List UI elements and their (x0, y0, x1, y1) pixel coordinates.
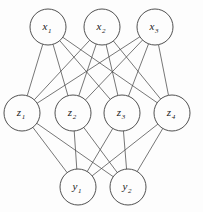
edge-z2-y2 (84, 127, 118, 172)
node-x3[interactable]: x3 (137, 9, 173, 45)
edge-x3-z2 (85, 40, 142, 100)
edge-x2-z1 (34, 40, 89, 100)
node-y2[interactable]: y2 (110, 169, 146, 205)
node-layer: x1x2x3z1z2z3z4y1y2 (4, 9, 190, 205)
edge-x2-z2 (79, 44, 97, 96)
node-x1[interactable]: x1 (30, 9, 66, 45)
network-graph-canvas: x1x2x3z1z2z3z4y1y2 (0, 0, 203, 212)
node-subscript-x3: 3 (154, 26, 159, 34)
node-subscript-x1: 1 (48, 26, 52, 34)
edge-z4-y1 (92, 124, 158, 176)
edge-layer (27, 37, 168, 177)
edge-x3-z4 (158, 45, 168, 96)
node-subscript-z1: 1 (22, 112, 26, 120)
node-subscript-x2: 2 (102, 26, 106, 34)
edge-z1-y1 (33, 127, 67, 172)
node-z3[interactable]: z3 (104, 95, 140, 131)
node-z1[interactable]: z1 (4, 95, 40, 131)
edge-x3-z1 (37, 37, 140, 103)
node-subscript-z2: 2 (73, 112, 77, 120)
node-y1[interactable]: y1 (60, 169, 96, 205)
node-z4[interactable]: z4 (154, 95, 190, 131)
node-x2[interactable]: x2 (84, 9, 120, 45)
edge-x1-z3 (60, 41, 111, 100)
edge-x1-z4 (63, 37, 157, 102)
node-subscript-y2: 2 (128, 186, 132, 194)
neural-network-diagram: x1x2x3z1z2z3z4y1y2 (0, 0, 203, 212)
edge-x1-z1 (27, 44, 43, 96)
node-subscript-z4: 4 (172, 112, 176, 120)
node-subscript-z3: 3 (121, 112, 126, 120)
edge-z3-y1 (87, 128, 113, 171)
edge-z4-y2 (137, 128, 163, 171)
node-subscript-y1: 1 (78, 186, 82, 194)
node-z2[interactable]: z2 (55, 95, 91, 131)
